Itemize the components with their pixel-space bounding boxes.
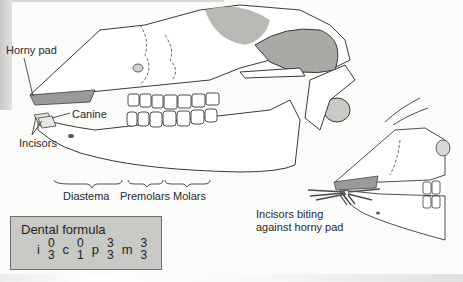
mental-foramen: [68, 134, 74, 138]
label-inset-caption-2: against horny pad: [256, 221, 343, 233]
formula-lower: 3: [141, 249, 148, 261]
formula-lower: 3: [107, 249, 114, 261]
dental-formula-row: i 0 3 c 0 1 p 3 3 m 3 3: [37, 237, 147, 261]
lower-incisors: [34, 113, 56, 128]
temporal-fossa: [240, 68, 305, 78]
label-inset-caption-1: Incisors biting: [256, 208, 323, 220]
label-molars: Molars: [173, 190, 206, 202]
formula-type-premolar: p: [92, 242, 99, 257]
formula-lower: 1: [77, 249, 84, 261]
label-canine: Canine: [72, 108, 107, 120]
label-incisors: Incisors: [19, 137, 57, 149]
formula-fraction-premolar: 3 3: [107, 237, 114, 261]
dentition-braces: [54, 180, 210, 188]
formula-type-canine: c: [63, 242, 70, 257]
label-premolars: Premolars: [120, 190, 170, 202]
label-horny-pad: Horny pad: [6, 44, 57, 56]
dental-formula-box: Dental formula i 0 3 c 0 1 p 3 3 m 3 3: [10, 216, 162, 270]
label-diastema: Diastema: [63, 190, 109, 202]
formula-fraction-canine: 0 1: [77, 237, 84, 261]
upper-cheek-teeth: [128, 93, 219, 109]
dental-formula-title: Dental formula: [21, 222, 106, 237]
formula-lower: 3: [48, 249, 55, 261]
formula-fraction-incisor: 0 3: [48, 237, 55, 261]
formula-type-molar: m: [122, 242, 133, 257]
formula-fraction-molar: 3 3: [141, 237, 148, 261]
infraorbital-foramen: [133, 64, 143, 72]
formula-type-incisor: i: [37, 242, 40, 257]
